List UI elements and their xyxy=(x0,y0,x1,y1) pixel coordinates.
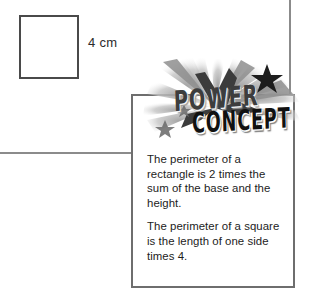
square-side-label: 4 cm xyxy=(88,35,117,50)
concept-paragraph-1: The perimeter of a rectangle is 2 times … xyxy=(147,152,287,210)
worksheet-page: 4 cm xyxy=(0,0,319,299)
square-outline-icon xyxy=(19,15,79,79)
concept-paragraph-2: The perimeter of a square is the length … xyxy=(147,219,287,263)
star-icon xyxy=(251,64,283,93)
power-concept-text: The perimeter of a rectangle is 2 times … xyxy=(147,152,287,263)
horizontal-page-rule xyxy=(0,152,132,154)
vertical-page-rule xyxy=(289,0,291,95)
